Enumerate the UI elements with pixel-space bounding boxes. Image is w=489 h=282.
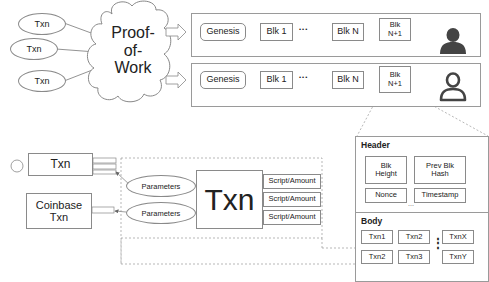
txn-label: TxnX: [449, 233, 467, 241]
header-field-nonce: Nonce: [365, 188, 407, 203]
header-field-timestamp: Timestamp: [414, 188, 466, 203]
parameters-ellipse-2: Parameters: [126, 202, 196, 224]
txn-input-3: Txn: [18, 70, 66, 92]
txn-label: TxnY: [449, 253, 467, 261]
txn-label: Txn3: [406, 253, 423, 261]
cloud-line: of-: [102, 42, 164, 60]
ellipsis: •••: [299, 26, 317, 38]
txn-label: Txn1: [369, 233, 386, 241]
ellipsis: •••: [299, 74, 317, 86]
user-outline-icon: [436, 72, 470, 102]
body-txn: Txn2: [361, 250, 393, 264]
parameters-label: Parameters: [142, 209, 181, 218]
block-n: Blk N: [332, 23, 364, 41]
body-txn: Txn3: [398, 250, 430, 264]
block-detail-panel: Header Blk Height Prev Blk Hash Nonce Ti…: [355, 136, 489, 282]
header-more: ...: [408, 200, 414, 207]
body-title: Body: [361, 216, 382, 226]
body-txn: TxnX: [442, 230, 474, 244]
main-txn-label: Txn: [204, 183, 254, 216]
output-label: Script/Amount: [268, 213, 315, 221]
field-label: Hash: [431, 170, 449, 178]
input-txn-box: Txn: [28, 153, 93, 176]
field-label: Timestamp: [422, 191, 459, 199]
block-n-plus-1: Blk N+1: [379, 18, 411, 41]
body-txn: TxnY: [442, 250, 474, 264]
coinbase-label: Txn: [50, 211, 68, 223]
field-label: Height: [375, 170, 397, 178]
parameters-label: Parameters: [142, 182, 181, 191]
header-field-blk-height: Blk Height: [365, 156, 407, 184]
output-script-amount: Script/Amount: [263, 174, 321, 189]
output-label: Script/Amount: [268, 195, 315, 203]
cloud-line: Work: [102, 59, 164, 77]
txn-input-2: Txn: [10, 38, 58, 60]
txn-input-label: Txn: [26, 44, 41, 54]
body-txn: Txn1: [361, 230, 393, 244]
genesis-block: Genesis: [200, 23, 246, 41]
txn-label: Txn2: [406, 233, 423, 241]
field-label: Nonce: [375, 191, 397, 199]
block-label: Genesis: [206, 27, 239, 37]
block-label: Genesis: [206, 75, 239, 85]
block-1: Blk 1: [260, 71, 293, 89]
parameters-ellipse-1: Parameters: [126, 175, 196, 197]
cloud-line: Proof-: [102, 24, 164, 42]
coinbase-txn-box: Coinbase Txn: [26, 193, 92, 229]
block-label: N+1: [388, 80, 402, 88]
coinbase-label: Coinbase: [36, 199, 82, 211]
user-filled-icon: [436, 28, 470, 54]
output-script-amount: Script/Amount: [263, 210, 321, 225]
block-1: Blk 1: [260, 23, 293, 41]
main-txn-box: Txn: [196, 170, 263, 229]
txn-label: Txn2: [369, 253, 386, 261]
block-label: Blk 1: [266, 27, 286, 37]
proof-of-work-label: Proof- of- Work: [102, 24, 164, 86]
block-label: Blk 1: [266, 75, 286, 85]
output-script-amount: Script/Amount: [263, 192, 321, 207]
block-label: N+1: [388, 30, 402, 38]
txn-input-label: Txn: [34, 76, 49, 86]
header-field-prev-blk-hash: Prev Blk Hash: [414, 156, 466, 184]
vertical-ellipsis: ⋮: [432, 236, 444, 250]
body-txn: Txn2: [398, 230, 430, 244]
block-n-plus-1: Blk N+1: [379, 66, 411, 93]
genesis-block: Genesis: [200, 71, 246, 89]
block-label: Blk N: [337, 75, 359, 85]
txn-label: Txn: [50, 158, 70, 171]
txn-input-1: Txn: [18, 13, 66, 35]
block-label: Blk N: [337, 27, 359, 37]
txn-input-label: Txn: [34, 19, 49, 29]
header-title: Header: [361, 140, 390, 150]
block-n: Blk N: [332, 71, 364, 89]
divider: [356, 212, 488, 213]
output-label: Script/Amount: [268, 177, 315, 185]
